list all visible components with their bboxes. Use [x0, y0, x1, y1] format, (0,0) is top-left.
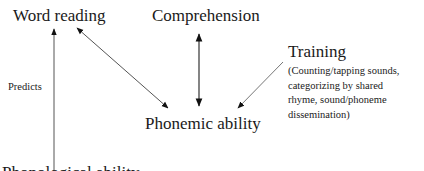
predicts-label: Predicts	[8, 80, 42, 95]
training-detail-line: rhyme, sound/phoneme	[288, 93, 399, 108]
word-reading-phonemic-arrow	[77, 28, 168, 108]
training-phonemic-arrow	[238, 62, 283, 108]
training-detail: (Counting/tapping sounds, categorizing b…	[288, 64, 399, 122]
training-detail-line: (Counting/tapping sounds,	[288, 64, 399, 79]
training-detail-line: categorizing by shared	[288, 79, 399, 94]
phonemic-ability-node: Phonemic ability	[145, 114, 261, 134]
bottom-cut-node: Phonological ability	[2, 163, 139, 171]
training-detail-line: dissemination)	[288, 108, 399, 123]
word-reading-node: Word reading	[13, 6, 106, 26]
training-node: Training	[288, 42, 346, 62]
comprehension-node: Comprehension	[152, 6, 260, 26]
